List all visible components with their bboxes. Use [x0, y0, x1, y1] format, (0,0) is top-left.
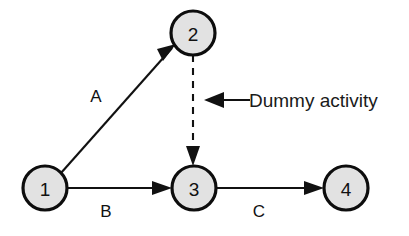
node-4-label: 4	[341, 179, 352, 200]
edge-a-line	[61, 48, 172, 173]
edge-dummy-group	[186, 55, 200, 166]
dummy-activity-arrowhead	[186, 146, 200, 166]
edge-b-label: B	[100, 202, 111, 221]
dummy-activity-annotation: Dummy activity	[204, 90, 378, 111]
node-4[interactable]: 4	[324, 166, 368, 210]
annotation-pointer-arrowhead	[204, 92, 224, 108]
node-1[interactable]: 1	[23, 166, 67, 210]
edge-a-label: A	[90, 87, 102, 106]
network-diagram-canvas: 1 2 3 4 A B C Dummy activity	[0, 0, 409, 236]
node-2-label: 2	[188, 24, 199, 45]
node-3-label: 3	[189, 179, 200, 200]
edge-c-arrowhead	[304, 181, 324, 195]
node-1-label: 1	[40, 179, 51, 200]
network-diagram-svg: 1 2 3 4 A B C Dummy activity	[0, 0, 409, 236]
annotation-label: Dummy activity	[249, 90, 378, 111]
node-2[interactable]: 2	[171, 11, 215, 55]
edge-a-arrowhead	[157, 44, 176, 61]
edge-c-label: C	[253, 202, 265, 221]
edge-b-arrowhead	[152, 181, 172, 195]
edge-b-group	[67, 181, 172, 195]
node-3[interactable]: 3	[172, 166, 216, 210]
edge-a-group	[61, 44, 176, 173]
edge-c-group	[216, 181, 324, 195]
